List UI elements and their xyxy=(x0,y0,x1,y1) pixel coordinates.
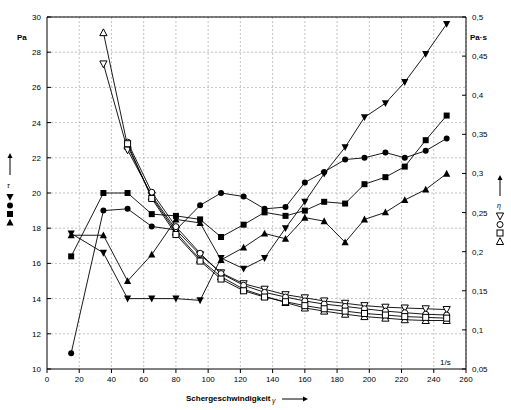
y-left-tick-label: 26 xyxy=(32,83,41,92)
series-line xyxy=(71,138,446,353)
legend-left xyxy=(6,194,13,226)
marker-filled-circle xyxy=(68,350,74,356)
y-axis-left-unit: Pa xyxy=(17,33,27,42)
marker-open-circle xyxy=(497,222,503,228)
marker-filled-square xyxy=(423,137,429,143)
x-tick-label: 0 xyxy=(45,375,50,384)
y-right-tick-label: 0,3 xyxy=(472,169,484,178)
y-right-tick-label: 0,15 xyxy=(472,287,488,296)
marker-open-square xyxy=(173,231,179,237)
y-left-tick-label: 24 xyxy=(32,119,41,128)
marker-filled-circle xyxy=(342,157,348,163)
marker-open-square xyxy=(321,306,327,312)
marker-filled-circle xyxy=(197,202,203,208)
x-axis-unit: 1/s xyxy=(440,358,451,367)
marker-filled-circle xyxy=(402,155,408,161)
marker-open-triangle-up xyxy=(496,238,503,245)
rheology-chart: 0204060801001201401601802002202402601012… xyxy=(0,0,511,410)
marker-filled-circle xyxy=(361,155,367,161)
series-line xyxy=(103,64,446,310)
marker-filled-triangle-down xyxy=(6,194,13,201)
marker-filled-triangle-up xyxy=(6,219,13,226)
y-right-tick-label: 0,1 xyxy=(472,326,484,335)
x-tick-label: 100 xyxy=(201,375,215,384)
legend-right xyxy=(496,213,503,245)
y-right-tick-label: 0,5 xyxy=(472,13,484,22)
marker-filled-circle xyxy=(444,135,450,141)
y-right-tick-label: 0,35 xyxy=(472,130,488,139)
marker-filled-square xyxy=(262,209,268,215)
x-tick-label: 60 xyxy=(139,375,148,384)
series-line xyxy=(71,116,446,257)
marker-filled-square xyxy=(100,190,106,196)
marker-open-square xyxy=(423,314,429,320)
marker-filled-square xyxy=(125,190,131,196)
marker-filled-triangle-down xyxy=(196,297,203,304)
marker-filled-circle xyxy=(302,179,308,185)
marker-filled-square xyxy=(283,213,289,219)
marker-filled-triangle-up xyxy=(401,196,408,203)
marker-open-square xyxy=(444,315,450,321)
y-left-tick-label: 18 xyxy=(32,224,41,233)
chart-root: 0204060801001201401601802002202402601012… xyxy=(0,0,511,410)
y-left-tick-label: 12 xyxy=(32,330,41,339)
series-tau-filled-triangle-down xyxy=(68,21,451,304)
marker-open-triangle-down xyxy=(100,61,107,68)
marker-filled-circle xyxy=(218,190,224,196)
series-tau-filled-circle xyxy=(68,135,449,356)
marker-filled-triangle-up xyxy=(382,209,389,216)
marker-filled-triangle-up xyxy=(148,251,155,258)
x-tick-label: 240 xyxy=(427,375,441,384)
y-left-tick-label: 16 xyxy=(32,259,41,268)
marker-filled-circle xyxy=(283,204,289,210)
marker-open-square xyxy=(402,314,408,320)
marker-open-triangle-up xyxy=(100,29,107,36)
x-tick-label: 140 xyxy=(266,375,280,384)
marker-filled-triangle-down xyxy=(321,171,328,178)
marker-open-square xyxy=(382,312,388,318)
x-tick-label: 120 xyxy=(234,375,248,384)
marker-open-square xyxy=(283,299,289,305)
y-right-tick-label: 0,2 xyxy=(472,248,484,257)
eta-arrowhead xyxy=(498,175,503,180)
marker-open-square xyxy=(262,294,268,300)
y-left-tick-label: 30 xyxy=(32,13,41,22)
marker-filled-square xyxy=(382,174,388,180)
marker-open-square xyxy=(241,288,247,294)
marker-filled-triangle-down xyxy=(100,250,107,257)
tau-symbol: τ xyxy=(7,182,10,189)
x-tick-label: 200 xyxy=(363,375,377,384)
marker-filled-circle xyxy=(241,194,247,200)
marker-filled-square xyxy=(444,113,450,119)
y-right-tick-label: 0,45 xyxy=(472,52,488,61)
x-tick-label: 220 xyxy=(395,375,409,384)
series-eta-open-triangle-up xyxy=(100,29,450,324)
marker-filled-square xyxy=(342,201,348,207)
marker-open-square xyxy=(361,310,367,316)
marker-open-square xyxy=(342,308,348,314)
series-line xyxy=(103,33,446,321)
marker-filled-square xyxy=(241,222,247,228)
marker-filled-square xyxy=(361,181,367,187)
y-left-tick-label: 22 xyxy=(32,154,41,163)
y-right-tick-label: 0,25 xyxy=(472,209,488,218)
x-tick-label: 180 xyxy=(330,375,344,384)
marker-filled-square xyxy=(402,164,408,170)
marker-filled-triangle-up xyxy=(422,186,429,193)
x-tick-label: 80 xyxy=(171,375,180,384)
marker-filled-square xyxy=(218,234,224,240)
y-left-tick-label: 28 xyxy=(32,48,41,57)
marker-filled-triangle-down xyxy=(282,225,289,232)
marker-open-circle xyxy=(173,224,179,230)
marker-filled-triangle-down xyxy=(261,255,268,262)
marker-open-square xyxy=(497,230,503,236)
series-line xyxy=(71,24,446,300)
series-tau-filled-triangle-up xyxy=(68,170,451,284)
marker-filled-triangle-down xyxy=(443,21,450,28)
marker-open-square xyxy=(125,141,131,147)
marker-open-triangle-down xyxy=(496,213,503,220)
marker-filled-circle xyxy=(149,223,155,229)
y-left-tick-label: 10 xyxy=(32,365,41,374)
series-group xyxy=(68,21,451,356)
x-axis-title-symbol: γ xyxy=(272,397,276,405)
